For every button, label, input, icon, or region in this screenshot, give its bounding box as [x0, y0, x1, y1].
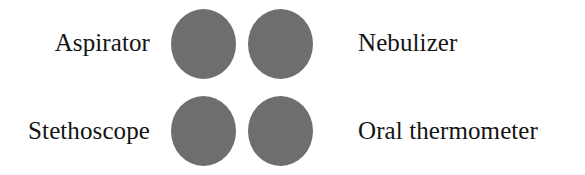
dot-stethoscope-icon[interactable]	[171, 96, 236, 166]
dot-nebulizer-icon[interactable]	[248, 9, 313, 79]
dot-cell-left-row-2	[160, 96, 246, 166]
label-left-row-2: Stethoscope	[0, 118, 160, 144]
label-right-row-1: Nebulizer	[343, 30, 585, 56]
matching-figure: Aspirator Nebulizer Stethoscope Oral the…	[0, 0, 585, 175]
dot-oral-thermometer-icon[interactable]	[248, 96, 313, 166]
dot-aspirator-icon[interactable]	[171, 9, 236, 79]
label-left-row-1: Aspirator	[0, 30, 160, 56]
dot-cell-right-row-1	[246, 9, 343, 79]
dot-cell-right-row-2	[246, 96, 343, 166]
matching-grid: Aspirator Nebulizer Stethoscope Oral the…	[0, 0, 585, 175]
label-right-row-2: Oral thermometer	[343, 118, 585, 144]
dot-cell-left-row-1	[160, 9, 246, 79]
